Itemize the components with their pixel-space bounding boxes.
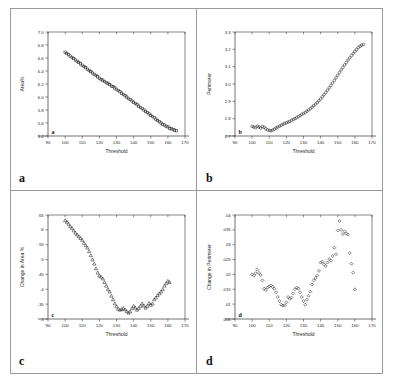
y-tick-label: .3 [40, 317, 44, 322]
data-point [309, 107, 312, 110]
x-tick-label: 170 [181, 140, 189, 145]
data-point [88, 250, 91, 253]
data-point [103, 281, 106, 284]
x-tick-label: 110 [266, 323, 274, 328]
panel-inner-letter: b [239, 129, 243, 135]
data-point [142, 304, 145, 307]
data-point [101, 277, 104, 280]
data-point [275, 291, 278, 294]
x-tick-label: 120 [283, 323, 291, 328]
panel-a-svg: 5.45.65.86.06.26.46.66.87.09010011012013… [10, 8, 196, 190]
panel-inner-letter: c [52, 312, 55, 318]
data-point [352, 271, 355, 274]
x-tick-label: 170 [368, 323, 376, 328]
y-tick-label: 2.7 [225, 134, 232, 139]
data-point [115, 305, 118, 308]
y-tick-label: .035 [222, 227, 231, 232]
data-point [316, 274, 319, 277]
y-tick-label: 5.4 [38, 134, 45, 139]
x-tick-label: 160 [164, 140, 172, 145]
y-tick-label: .4 [40, 287, 44, 292]
data-point [70, 226, 73, 229]
data-point [328, 87, 331, 90]
data-point [309, 290, 312, 293]
y-tick-label: 6.2 [38, 82, 45, 87]
data-point [285, 301, 288, 304]
data-point [134, 306, 137, 309]
x-tick-label: 160 [351, 323, 359, 328]
x-tick-label: 170 [368, 140, 376, 145]
data-point [304, 303, 307, 306]
data-point [350, 262, 353, 265]
panel-b: 2.72.82.93.03.13.23.39010011012013014015… [197, 8, 383, 190]
data-point [67, 222, 70, 225]
y-tick-label: .01 [225, 302, 232, 307]
y-tick-label: .5 [40, 257, 44, 262]
data-point [106, 288, 109, 291]
x-tick-label: 110 [79, 323, 87, 328]
y-axis-title: Perimeter [206, 73, 212, 95]
y-tick-label: 3.3 [225, 30, 232, 35]
data-point [312, 279, 315, 282]
x-tick-label: 160 [164, 323, 172, 328]
data-point [305, 298, 308, 301]
x-tick-label: 140 [317, 323, 325, 328]
y-tick-label: 6.0 [38, 95, 45, 100]
x-tick-label: 140 [130, 323, 138, 328]
x-axis-title: Threshold [105, 331, 127, 337]
data-point [292, 292, 295, 295]
data-point [96, 271, 99, 274]
data-point [141, 302, 144, 305]
panel-d-letter: d [206, 354, 213, 369]
data-point [153, 298, 156, 301]
data-point [93, 262, 96, 265]
panel-d: .005.01.015.02.025.03.035.04901001101201… [197, 191, 383, 373]
data-point [353, 288, 356, 291]
y-tick-label: .04 [225, 213, 232, 218]
y-tick-label: .03 [225, 242, 232, 247]
x-tick-label: 170 [181, 323, 189, 328]
data-point [331, 255, 334, 258]
y-tick-label: .35 [38, 302, 45, 307]
y-tick-label: .55 [38, 242, 45, 247]
x-tick-label: 150 [147, 140, 155, 145]
y-tick-label: 6.4 [38, 69, 45, 74]
data-point [307, 294, 310, 297]
x-tick-label: 120 [283, 140, 291, 145]
y-tick-label: 5.8 [38, 108, 45, 113]
data-point [338, 219, 341, 222]
panel-c-plot: .3.35.4.45.5.55.6.6590100110120130140150… [10, 191, 196, 373]
x-tick-label: 110 [79, 140, 87, 145]
x-tick-label: 100 [61, 140, 69, 145]
data-point [82, 241, 85, 244]
x-tick-label: 90 [46, 140, 51, 145]
y-tick-label: 7.0 [38, 30, 45, 35]
x-tick-label: 100 [248, 323, 256, 328]
data-point [91, 258, 94, 261]
data-point [251, 125, 254, 128]
x-tick-label: 100 [61, 323, 69, 328]
panel-inner-letter: d [239, 312, 243, 318]
data-point [338, 71, 341, 74]
data-point [256, 268, 259, 271]
y-tick-label: 3.0 [225, 82, 232, 87]
x-tick-label: 90 [233, 323, 238, 328]
data-point [94, 267, 97, 270]
x-tick-label: 100 [248, 140, 256, 145]
x-tick-label: 140 [130, 140, 138, 145]
x-axis-title: Threshold [292, 331, 314, 337]
x-tick-label: 90 [233, 140, 238, 145]
data-point [311, 283, 314, 286]
x-tick-label: 130 [113, 140, 121, 145]
data-point [111, 298, 114, 301]
panel-c-svg: .3.35.4.45.5.55.6.6590100110120130140150… [10, 191, 196, 373]
panel-b-plot: 2.72.82.93.03.13.23.39010011012013014015… [197, 8, 383, 190]
x-tick-label: 110 [266, 140, 274, 145]
data-point [343, 64, 346, 67]
data-point [345, 61, 348, 64]
x-tick-label: 120 [96, 140, 104, 145]
y-tick-label: .02 [225, 272, 232, 277]
x-axis-title: Threshold [292, 148, 314, 154]
data-point [144, 306, 147, 309]
panel-d-svg: .005.01.015.02.025.03.035.04901001101201… [197, 191, 383, 373]
